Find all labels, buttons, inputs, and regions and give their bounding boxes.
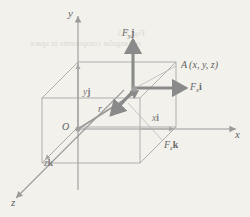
- fz-unit: k: [173, 139, 179, 150]
- yj-unit: j: [87, 87, 90, 97]
- vector-diagram-figure: Fig. 2-5 rectangular components in space: [0, 0, 250, 217]
- force-label-fx: Fxi: [190, 82, 202, 93]
- axis-z: [16, 90, 124, 198]
- point-a-dot: [131, 86, 137, 92]
- force-label-fz: Fzk: [164, 140, 178, 151]
- component-label-yj: yj: [83, 88, 90, 98]
- fx-unit: i: [199, 81, 202, 92]
- axis-label-z: z: [11, 197, 15, 208]
- position-vector-label: r: [98, 104, 102, 114]
- force-label-fy: Fyj: [122, 28, 134, 39]
- point-a-symbol: A: [181, 59, 187, 70]
- zk-unit: k: [48, 158, 53, 168]
- origin-label: O: [62, 122, 69, 132]
- component-label-xi: xi: [152, 114, 159, 124]
- fy-unit: j: [131, 27, 134, 38]
- point-a-coordinates: (x, y, z): [189, 59, 218, 70]
- component-label-zk: zk: [44, 159, 53, 169]
- axis-label-y: y: [68, 8, 73, 19]
- origin-dot: [75, 126, 80, 131]
- axis-label-x: x: [235, 129, 240, 140]
- leader-lines: [128, 66, 176, 141]
- force-vector-fz: [111, 90, 134, 115]
- point-a-label: A(x, y, z): [181, 60, 218, 70]
- xi-unit: i: [156, 113, 159, 123]
